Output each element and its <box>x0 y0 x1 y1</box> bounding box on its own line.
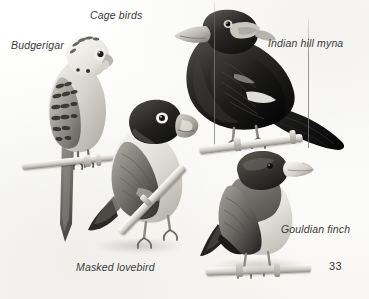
label-gouldian-finch: Gouldian finch <box>281 224 350 235</box>
label-indian-hill-myna: Indian hill myna <box>268 38 343 49</box>
page-number: 33 <box>329 260 342 272</box>
myna-perch-wire-left <box>214 2 215 148</box>
plate-title: Cage birds <box>90 10 142 21</box>
label-masked-lovebird: Masked lovebird <box>76 262 155 273</box>
lovebird-shadow <box>96 238 182 254</box>
finch-shadow <box>212 258 308 272</box>
label-budgerigar: Budgerigar <box>11 40 64 51</box>
illustration-plate: Cage birds Budgerigar Indian hill myna G… <box>0 0 369 299</box>
